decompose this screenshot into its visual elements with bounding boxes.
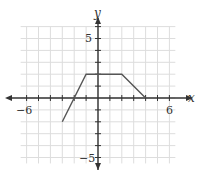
y-tick-label-neg5: −5 [79, 152, 95, 165]
y-tick-label-5: 5 [85, 32, 92, 45]
coordinate-plane: x y −6 6 5 −5 [0, 0, 209, 178]
x-tick-label-6: 6 [166, 104, 173, 117]
x-tick-label-neg6: −6 [16, 104, 32, 117]
axes [5, 17, 193, 170]
y-axis-label: y [93, 6, 101, 20]
x-axis-label: x [188, 91, 195, 105]
